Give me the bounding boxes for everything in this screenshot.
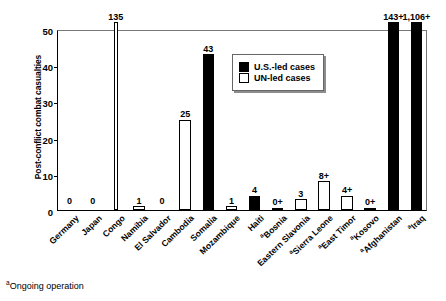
bar-value-germany: 0 bbox=[67, 196, 72, 206]
bar-iraq: 1,106+ bbox=[411, 22, 423, 210]
bar-somalia: 43 bbox=[203, 54, 215, 210]
bar-mozambique: 1 bbox=[226, 206, 238, 210]
y-tick-label-40: 40 bbox=[42, 62, 53, 73]
bar-haiti: 4 bbox=[249, 196, 261, 210]
bar-value-iraq: 1,106+ bbox=[403, 12, 431, 22]
bar-value-japan: 0 bbox=[90, 196, 95, 206]
bar-kosovo: 0+ bbox=[364, 208, 376, 211]
legend-item-un-led: UN-led cases bbox=[239, 73, 315, 83]
x-tick-label-text-iraq: Iraq bbox=[409, 213, 427, 231]
y-tick-label-50: 50 bbox=[42, 26, 53, 37]
y-tick-mark-20 bbox=[54, 140, 59, 141]
bar-cambodia: 25 bbox=[179, 120, 191, 211]
footnote-text: Ongoing operation bbox=[10, 281, 84, 291]
legend-swatch-icon-un-led bbox=[239, 73, 249, 83]
bar-east-timor: 4+ bbox=[341, 196, 353, 210]
y-tick-label-20: 20 bbox=[42, 134, 53, 145]
legend-label-un-led: UN-led cases bbox=[254, 73, 311, 83]
bar-value-sierra-leone: 8+ bbox=[319, 171, 329, 181]
bar-value-kosovo: 0+ bbox=[365, 197, 375, 207]
bar-value-somalia: 43 bbox=[203, 44, 213, 54]
x-tick-label-iraq: aIraq bbox=[407, 213, 428, 233]
bar-eastern-slavonia: 3 bbox=[295, 199, 307, 210]
x-tick-label-text-japan: Japan bbox=[79, 213, 104, 237]
bar-sierra-leone: 8+ bbox=[318, 181, 330, 210]
bar-bosnia: 0+ bbox=[272, 208, 284, 211]
x-tick-label-japan: Japan bbox=[79, 213, 104, 237]
chart-figure: Post-conflict combat casualties 01020304… bbox=[0, 0, 446, 301]
y-tick-mark-10 bbox=[54, 176, 59, 177]
y-tick-label-30: 30 bbox=[42, 98, 53, 109]
x-tick-label-germany: Germany bbox=[47, 213, 81, 246]
bar-value-cambodia: 25 bbox=[180, 109, 190, 119]
x-axis-labels: GermanyJapanCongoNamibiaEl SalvadorCambo… bbox=[57, 213, 427, 273]
legend-swatch-icon-us-led bbox=[239, 62, 249, 72]
y-tick-label-10: 10 bbox=[42, 170, 53, 181]
bar-value-namibia: 1 bbox=[136, 196, 141, 206]
chart-legend: U.S.-led casesUN-led cases bbox=[232, 54, 324, 91]
bar-value-bosnia: 0+ bbox=[273, 197, 283, 207]
bar-value-congo: 135 bbox=[108, 12, 123, 22]
bar-value-el-salvador: 0 bbox=[160, 196, 165, 206]
legend-label-us-led: U.S.-led cases bbox=[254, 62, 315, 72]
y-tick-mark-40 bbox=[54, 67, 59, 68]
bar-afghanistan: 143+ bbox=[388, 22, 400, 210]
bar-value-haiti: 4 bbox=[252, 185, 257, 195]
y-tick-label-0: 0 bbox=[48, 207, 53, 218]
bar-congo: 135 bbox=[114, 22, 119, 210]
bar-namibia: 1 bbox=[133, 206, 145, 210]
footnote: aOngoing operation bbox=[6, 281, 84, 291]
bar-value-mozambique: 1 bbox=[229, 196, 234, 206]
bar-value-eastern-slavonia: 3 bbox=[298, 189, 303, 199]
legend-item-us-led: U.S.-led cases bbox=[239, 62, 315, 72]
bar-value-afghanistan: 143+ bbox=[383, 12, 403, 22]
bar-value-east-timor: 4+ bbox=[342, 185, 352, 195]
x-tick-label-text-germany: Germany bbox=[47, 213, 81, 246]
y-tick-mark-30 bbox=[54, 103, 59, 104]
